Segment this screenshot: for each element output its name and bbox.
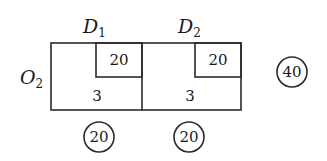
column-label-d2: D2: [177, 15, 201, 40]
allocation-d1: 3: [92, 87, 102, 105]
allocation-d2: 3: [185, 87, 195, 105]
transportation-diagram: D1 D2 O2 20 3 20 3 40 20 20: [0, 0, 327, 161]
cost-d2: 20: [208, 51, 227, 69]
cost-d1: 20: [109, 51, 128, 69]
row-label-o2: O2: [20, 66, 43, 91]
column-label-d1: D1: [82, 15, 106, 40]
supply-value: 40: [282, 63, 301, 81]
demand-value-d1: 20: [89, 128, 108, 146]
demand-value-d2: 20: [179, 128, 198, 146]
